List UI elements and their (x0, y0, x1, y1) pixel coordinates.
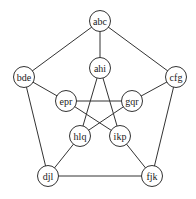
edge-bde-djl (24, 77, 48, 176)
node-label: ahi (94, 63, 106, 74)
node-label: hlq (74, 131, 87, 142)
node-bde: bde (14, 67, 35, 88)
edges (24, 21, 176, 176)
node-label: abc (93, 16, 107, 27)
node-label: ikp (114, 131, 127, 142)
node-hlq: hlq (70, 126, 91, 147)
edge-cfg-fjk (152, 77, 176, 176)
node-ikp: ikp (110, 126, 131, 147)
node-djl: djl (38, 166, 59, 187)
node-gqr: gqr (122, 91, 143, 112)
node-label: epr (60, 96, 73, 107)
node-label: fjk (146, 171, 157, 182)
node-label: cfg (170, 72, 183, 83)
node-fjk: fjk (142, 166, 163, 187)
edge-abc-cfg (100, 21, 176, 77)
node-label: bde (17, 72, 32, 83)
petersen-graph: abcahibdecfgeprgqrhlqikpdjlfjk (0, 0, 196, 199)
node-label: gqr (125, 96, 139, 107)
edge-abc-bde (24, 21, 100, 77)
node-abc: abc (90, 11, 111, 32)
node-epr: epr (56, 91, 77, 112)
node-ahi: ahi (90, 58, 111, 79)
node-cfg: cfg (166, 67, 187, 88)
node-label: djl (43, 171, 54, 182)
